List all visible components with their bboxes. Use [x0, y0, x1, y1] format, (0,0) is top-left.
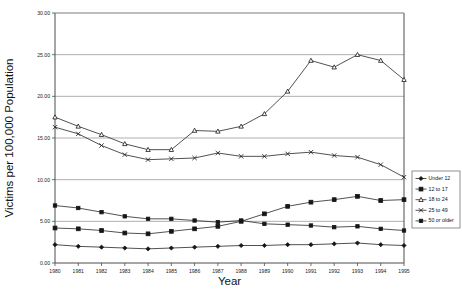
series-0-point-9 — [262, 243, 266, 247]
series-1-point-6 — [193, 227, 197, 231]
series-0-point-1 — [76, 244, 80, 248]
legend-marker-4 — [419, 219, 422, 222]
xtick-label-1981: 1981 — [73, 268, 84, 274]
series-line-3 — [55, 127, 404, 177]
xtick-label-1991: 1991 — [305, 268, 316, 274]
series-3-point-2 — [99, 143, 103, 147]
victims-by-age-line-chart: 0.005.0010.0015.0020.0025.0030.001980198… — [0, 0, 462, 303]
series-2-point-6 — [192, 128, 196, 132]
series-4-point-4 — [146, 217, 149, 220]
series-1-point-12 — [332, 198, 336, 202]
series-4-point-0 — [53, 204, 56, 207]
series-2-point-8 — [239, 124, 243, 128]
legend-label-3: 25 to 49 — [429, 207, 448, 213]
ytick-label-0: 0.00 — [40, 260, 50, 266]
xtick-label-1989: 1989 — [259, 268, 270, 274]
series-1-point-14 — [379, 199, 383, 203]
series-line-4 — [55, 206, 404, 231]
ytick-label-5: 5.00 — [40, 218, 50, 224]
series-4-point-11 — [309, 224, 312, 227]
series-2-point-11 — [309, 58, 313, 62]
ytick-label-30: 30.00 — [37, 10, 50, 16]
legend-label-2: 18 to 24 — [429, 196, 448, 202]
series-0-point-5 — [169, 246, 173, 250]
series-0-point-3 — [123, 246, 127, 250]
series-2-point-4 — [146, 147, 150, 151]
xtick-label-1995: 1995 — [398, 268, 409, 274]
series-1-point-2 — [100, 229, 104, 233]
series-0-point-0 — [53, 243, 57, 247]
series-0-point-15 — [402, 243, 406, 247]
series-4-point-3 — [123, 215, 126, 218]
series-0-point-13 — [355, 241, 359, 245]
ytick-label-10: 10.00 — [37, 177, 50, 183]
series-1-point-5 — [169, 229, 173, 233]
ytick-label-25: 25.00 — [37, 52, 50, 58]
xtick-label-1993: 1993 — [352, 268, 363, 274]
series-1-point-10 — [286, 204, 290, 208]
series-4-point-8 — [239, 219, 242, 222]
xtick-label-1982: 1982 — [96, 268, 107, 274]
series-1-point-15 — [402, 198, 406, 202]
figure-caption — [0, 290, 462, 303]
series-2-point-3 — [123, 142, 127, 146]
series-line-0 — [55, 243, 404, 249]
xtick-label-1992: 1992 — [329, 268, 340, 274]
series-2-point-2 — [99, 132, 103, 136]
series-1-point-9 — [263, 212, 267, 216]
x-axis-title: Year — [218, 275, 241, 287]
xtick-label-1994: 1994 — [375, 268, 386, 274]
series-4-point-2 — [100, 210, 103, 213]
xtick-label-1980: 1980 — [49, 268, 60, 274]
series-3-point-14 — [379, 162, 383, 166]
series-1-point-0 — [53, 226, 57, 230]
xtick-label-1990: 1990 — [282, 268, 293, 274]
series-1-point-1 — [76, 227, 80, 231]
series-1-point-13 — [356, 194, 360, 198]
series-0-point-4 — [146, 247, 150, 251]
series-4-point-7 — [216, 220, 219, 223]
ytick-label-15: 15.00 — [37, 135, 50, 141]
series-0-point-12 — [332, 242, 336, 246]
xtick-label-1986: 1986 — [189, 268, 200, 274]
chart-figure: 0.005.0010.0015.0020.0025.0030.001980198… — [0, 0, 462, 303]
series-0-point-14 — [379, 243, 383, 247]
series-2-point-12 — [332, 65, 336, 69]
series-4-point-13 — [356, 225, 359, 228]
series-1-point-3 — [123, 231, 127, 235]
series-line-1 — [55, 196, 404, 234]
y-axis-title: Victims per 100,000 Population — [3, 59, 15, 218]
xtick-label-1987: 1987 — [212, 268, 223, 274]
legend-marker-1 — [419, 187, 423, 191]
series-0-point-8 — [239, 243, 243, 247]
series-3-point-1 — [76, 132, 80, 136]
ytick-label-20: 20.00 — [37, 93, 50, 99]
series-4-point-1 — [77, 206, 80, 209]
series-4-point-12 — [333, 225, 336, 228]
xtick-label-1985: 1985 — [166, 268, 177, 274]
series-1-point-4 — [146, 232, 150, 236]
legend-label-1: 12 to 17 — [429, 186, 448, 192]
series-2-point-14 — [379, 58, 383, 62]
series-0-point-7 — [216, 244, 220, 248]
series-4-point-5 — [170, 217, 173, 220]
series-0-point-11 — [309, 243, 313, 247]
xtick-label-1988: 1988 — [235, 268, 246, 274]
series-4-point-15 — [402, 229, 405, 232]
legend-label-4: 50 or older — [429, 217, 455, 223]
series-2-point-7 — [216, 129, 220, 133]
xtick-label-1983: 1983 — [119, 268, 130, 274]
series-2-point-0 — [53, 115, 57, 119]
series-4-point-14 — [379, 227, 382, 230]
series-4-point-9 — [263, 222, 266, 225]
series-4-point-6 — [193, 219, 196, 222]
series-0-point-2 — [99, 245, 103, 249]
series-2-point-1 — [76, 124, 80, 128]
series-1-point-11 — [309, 200, 313, 204]
legend-label-0: Under 12 — [429, 175, 451, 181]
series-1-point-7 — [216, 224, 220, 228]
series-line-2 — [55, 55, 404, 150]
series-2-point-13 — [355, 52, 359, 56]
series-4-point-10 — [286, 223, 289, 226]
series-0-point-6 — [193, 245, 197, 249]
